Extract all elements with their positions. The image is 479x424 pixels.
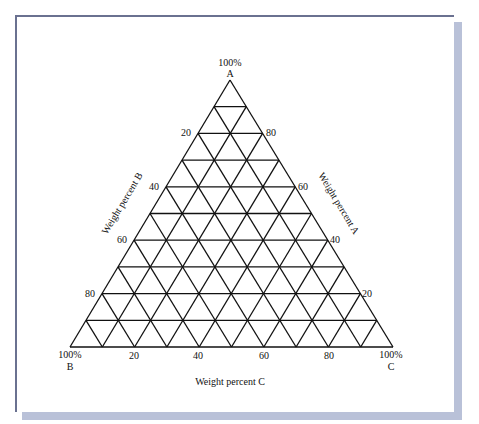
left-axis-title: Weight percent B <box>99 170 145 236</box>
bottom-right-name-label: C <box>388 361 395 372</box>
bottom-left-name-label: B <box>67 361 74 372</box>
grid-line-b <box>182 160 296 347</box>
grid-line-c <box>232 214 312 348</box>
grid-line-c <box>361 320 377 347</box>
left-tick: 60 <box>117 234 127 245</box>
bottom-right-percent-label: 100% <box>379 349 402 360</box>
apex-name-label: A <box>226 68 234 79</box>
grid-line-c <box>102 107 246 347</box>
grid-line-b <box>86 320 102 347</box>
bottom-left-percent-label: 100% <box>58 349 81 360</box>
right-tick: 60 <box>298 181 308 192</box>
grid-line-b <box>150 214 232 348</box>
bottom-axis-title: Weight percent C <box>195 376 265 387</box>
ternary-diagram: 100% A 100% B 100% C 20 40 60 80 20 40 6… <box>0 0 479 424</box>
right-axis-title: Weight percent A <box>316 170 362 236</box>
bottom-tick: 80 <box>324 350 334 361</box>
bottom-tick: 20 <box>129 350 139 361</box>
bottom-tick: 60 <box>259 350 269 361</box>
left-tick: 20 <box>181 127 191 138</box>
apex-percent-label: 100% <box>218 57 241 68</box>
left-tick: 40 <box>149 181 159 192</box>
grid-line-b <box>214 107 361 347</box>
right-tick: 20 <box>362 288 372 299</box>
bottom-tick: 40 <box>193 350 203 361</box>
right-tick: 80 <box>266 127 276 138</box>
right-tick: 40 <box>330 234 340 245</box>
grid-line-c <box>167 160 279 347</box>
left-tick: 80 <box>85 288 95 299</box>
